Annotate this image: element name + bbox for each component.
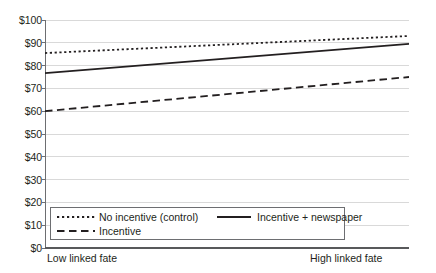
legend-label: Incentive bbox=[99, 226, 141, 237]
y-tick-label: $10 bbox=[2, 220, 42, 231]
solid-line-swatch-icon bbox=[214, 212, 254, 222]
series-line-incentive bbox=[45, 77, 409, 111]
legend-item-no-incentive-control: No incentive (control) bbox=[56, 210, 198, 224]
legend-item-incentive: Incentive bbox=[56, 224, 141, 238]
linked-fate-line-chart: $100 $90 $80 $70 $60 $50 $40 $30 $20 $10… bbox=[0, 0, 436, 273]
y-axis-labels: $100 $90 $80 $70 $60 $50 $40 $30 $20 $10… bbox=[0, 0, 42, 273]
dotted-line-swatch-icon bbox=[56, 212, 96, 222]
x-tick-label-high-linked-fate: High linked fate bbox=[310, 252, 382, 264]
series-line-incentive-plus-newspaper bbox=[45, 44, 409, 73]
y-tick-label: $100 bbox=[2, 15, 42, 26]
y-tick-label: $50 bbox=[2, 129, 42, 140]
y-tick-label: $0 bbox=[2, 243, 42, 254]
y-tick-label: $60 bbox=[2, 106, 42, 117]
chart-legend: No incentive (control) Incentive Incenti… bbox=[50, 207, 345, 240]
y-tick-label: $70 bbox=[2, 83, 42, 94]
x-tick-label-low-linked-fate: Low linked fate bbox=[47, 252, 117, 264]
series-line-no-incentive-control bbox=[45, 36, 409, 53]
y-tick-label: $40 bbox=[2, 152, 42, 163]
legend-item-incentive-plus-newspaper: Incentive + newspaper bbox=[214, 210, 362, 224]
y-tick-label: $80 bbox=[2, 60, 42, 71]
legend-label: Incentive + newspaper bbox=[257, 212, 362, 223]
dashed-line-swatch-icon bbox=[56, 226, 96, 236]
legend-label: No incentive (control) bbox=[99, 212, 198, 223]
y-axis-line bbox=[42, 20, 45, 248]
y-tick-label: $30 bbox=[2, 174, 42, 185]
y-tick-label: $90 bbox=[2, 38, 42, 49]
y-tick-label: $20 bbox=[2, 197, 42, 208]
